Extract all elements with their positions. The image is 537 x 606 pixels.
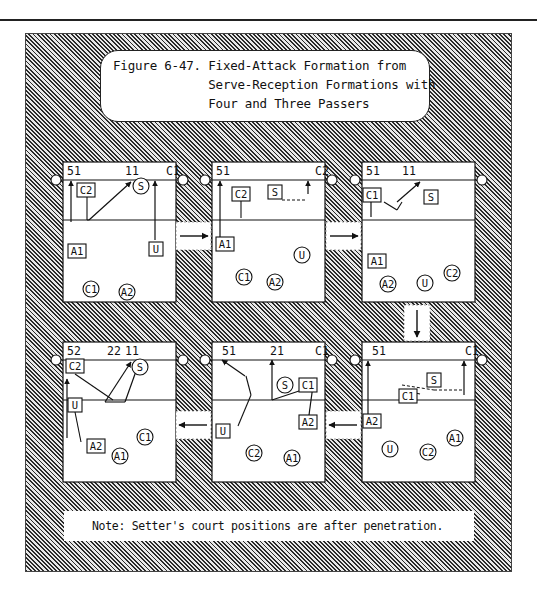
player-c2: C2 [232, 187, 250, 201]
player-label: C1 [302, 379, 315, 391]
player-c1: C1 [363, 188, 381, 202]
player-label: C1 [238, 271, 251, 283]
player-a1: A1 [284, 450, 300, 466]
attack-call-label: C1 [166, 164, 180, 178]
court-4: 522211C2SUA2C1A1 [51, 342, 188, 482]
player-label: C1 [402, 390, 415, 402]
player-label: S [138, 180, 144, 192]
transition-arrow-1 [176, 222, 211, 250]
player-label: A2 [121, 286, 134, 298]
net-post-left [51, 355, 61, 365]
player-c2: C2 [420, 444, 436, 460]
attack-call-label: C1 [315, 344, 329, 358]
transition-arrow-5 [176, 411, 211, 439]
player-label: C1 [366, 189, 379, 201]
player-u: U [382, 441, 398, 457]
player-a2: A2 [119, 284, 135, 300]
player-label: S [428, 191, 434, 203]
player-label: C2 [80, 184, 93, 196]
player-a2: A2 [380, 276, 396, 292]
player-label: A2 [382, 278, 395, 290]
player-s: S [132, 359, 148, 375]
court-outline [362, 342, 475, 482]
player-a1: A1 [368, 254, 386, 268]
player-s: S [427, 373, 441, 387]
player-label: U [220, 425, 226, 437]
player-c1: C1 [83, 281, 99, 297]
player-label: S [431, 374, 437, 386]
attack-call-label: 11 [402, 164, 416, 178]
court-5: 5121C1SC1UA2C2A1 [200, 342, 337, 482]
player-a1: A1 [447, 430, 463, 446]
player-a2: A2 [267, 274, 283, 290]
attack-call-label: 51 [216, 164, 230, 178]
player-label: C2 [248, 447, 261, 459]
net-post-right [178, 355, 188, 365]
attack-call-label: 51 [222, 344, 236, 358]
attack-call-label: 52 [67, 344, 81, 358]
player-s: S [133, 178, 149, 194]
player-c2: C2 [66, 359, 84, 373]
net-post-left [350, 355, 360, 365]
attack-call-label: 11 [125, 164, 139, 178]
attack-call-label: 51 [372, 344, 386, 358]
net-post-right [477, 175, 487, 185]
player-label: A2 [302, 416, 315, 428]
player-a1: A1 [68, 244, 86, 258]
player-label: C2 [446, 267, 459, 279]
player-label: S [137, 361, 143, 373]
player-a1: A1 [216, 237, 234, 251]
player-c1: C1 [137, 429, 153, 445]
net-post-left [350, 175, 360, 185]
player-label: A2 [366, 415, 379, 427]
player-label: U [153, 243, 159, 255]
player-c2: C2 [246, 445, 262, 461]
player-s: S [424, 190, 438, 204]
player-label: C1 [139, 431, 152, 443]
player-c1: C1 [399, 389, 417, 403]
net-post-left [51, 175, 61, 185]
player-label: A1 [286, 452, 299, 464]
player-u: U [68, 398, 82, 412]
player-label: A1 [219, 238, 232, 250]
player-label: C1 [85, 283, 98, 295]
player-label: A1 [371, 255, 384, 267]
attack-call-label: 22 [107, 344, 121, 358]
player-s: S [268, 185, 282, 199]
player-label: S [272, 186, 278, 198]
player-label: A2 [90, 440, 103, 452]
player-a2: A2 [363, 414, 381, 428]
attack-call-label: C2 [315, 164, 329, 178]
formation-diagram: 5111C1C2SA1UC1A251C2C2SA1UC1A25111C1SA1C… [0, 0, 537, 606]
transition-arrow-3 [404, 305, 430, 341]
player-label: A1 [449, 432, 462, 444]
court-3: 5111C1SA1C2A2U [350, 162, 487, 302]
player-label: A2 [269, 276, 282, 288]
net-post-left [200, 355, 210, 365]
attack-call-label: 51 [67, 164, 81, 178]
player-label: U [299, 249, 305, 261]
court-1: 5111C1C2SA1UC1A2 [51, 162, 188, 302]
player-a2: A2 [87, 439, 105, 453]
court-outline [212, 342, 325, 482]
transition-arrow-2 [326, 222, 361, 250]
player-label: C2 [69, 360, 82, 372]
player-u: U [294, 247, 310, 263]
player-c1: C1 [236, 269, 252, 285]
player-label: C2 [422, 446, 435, 458]
transition-arrow-4 [326, 411, 361, 439]
player-c2: C2 [77, 183, 95, 197]
player-s: S [277, 377, 293, 393]
player-u: U [216, 424, 230, 438]
player-a2: A2 [299, 415, 317, 429]
player-a1: A1 [112, 448, 128, 464]
player-label: S [282, 379, 288, 391]
player-label: A1 [114, 450, 127, 462]
attack-call-label: 51 [366, 164, 380, 178]
player-label: U [422, 277, 428, 289]
player-label: C2 [235, 188, 248, 200]
player-u: U [149, 242, 163, 256]
player-c1: C1 [299, 378, 317, 392]
player-label: U [72, 399, 78, 411]
attack-call-label: 11 [125, 344, 139, 358]
